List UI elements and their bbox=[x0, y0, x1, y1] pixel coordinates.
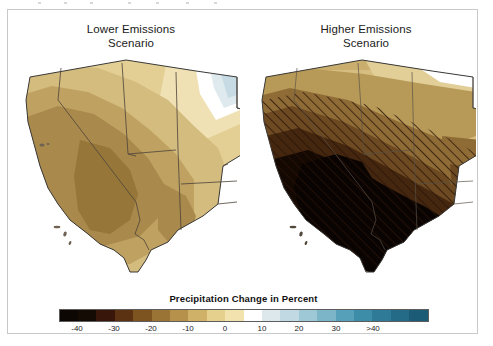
colorbar-swatch-2 bbox=[96, 310, 114, 321]
colorbar-tick-0: -40 bbox=[71, 324, 83, 333]
colorbar-tick-8: >40 bbox=[366, 324, 380, 333]
colorbar-tick-2: -20 bbox=[145, 324, 157, 333]
colorbar-swatch-6 bbox=[170, 310, 188, 321]
colorbar-tick-1: -30 bbox=[108, 324, 120, 333]
map-lower-emissions-svg bbox=[18, 44, 240, 289]
colorbar-swatch-14 bbox=[317, 310, 335, 321]
colorbar-swatch-15 bbox=[336, 310, 354, 321]
colorbar-swatch-10 bbox=[244, 310, 262, 321]
colorbar-swatch-5 bbox=[152, 310, 170, 321]
colorbar-swatch-0 bbox=[60, 310, 78, 321]
colorbar-tick-6: 20 bbox=[295, 324, 304, 333]
map-higher-emissions-svg bbox=[244, 44, 476, 289]
colorbar-tick-7: 30 bbox=[332, 324, 341, 333]
scan-artifacts bbox=[0, 0, 493, 8]
colorbar-swatch-4 bbox=[133, 310, 151, 321]
colorbar-tick-4: 0 bbox=[223, 324, 227, 333]
legend: Precipitation Change in Percent -40-30-2… bbox=[8, 293, 479, 336]
colorbar-tick-labels: -40-30-20-100102030>40 bbox=[59, 324, 429, 336]
figure-frame: Lower Emissions Scenario Higher Emission… bbox=[7, 9, 478, 334]
colorbar-tick-5: 10 bbox=[258, 324, 267, 333]
colorbar-swatch-17 bbox=[372, 310, 390, 321]
colorbar-swatch-7 bbox=[188, 310, 206, 321]
colorbar-swatch-16 bbox=[354, 310, 372, 321]
colorbar-swatch-13 bbox=[299, 310, 317, 321]
colorbar-swatch-8 bbox=[207, 310, 225, 321]
coastal-islands bbox=[290, 226, 308, 246]
colorbar-swatch-19 bbox=[409, 310, 427, 321]
map-lower-emissions bbox=[18, 44, 240, 289]
colorbar-swatch-11 bbox=[262, 310, 280, 321]
legend-title: Precipitation Change in Percent bbox=[8, 293, 479, 304]
colorbar-swatch-1 bbox=[78, 310, 96, 321]
colorbar-swatch-9 bbox=[225, 310, 243, 321]
colorbar bbox=[59, 309, 429, 322]
colorbar-swatch-18 bbox=[391, 310, 409, 321]
colorbar-tick-3: -10 bbox=[182, 324, 194, 333]
colorbar-swatch-12 bbox=[280, 310, 298, 321]
colorbar-swatch-3 bbox=[115, 310, 133, 321]
map-higher-emissions bbox=[244, 44, 476, 289]
